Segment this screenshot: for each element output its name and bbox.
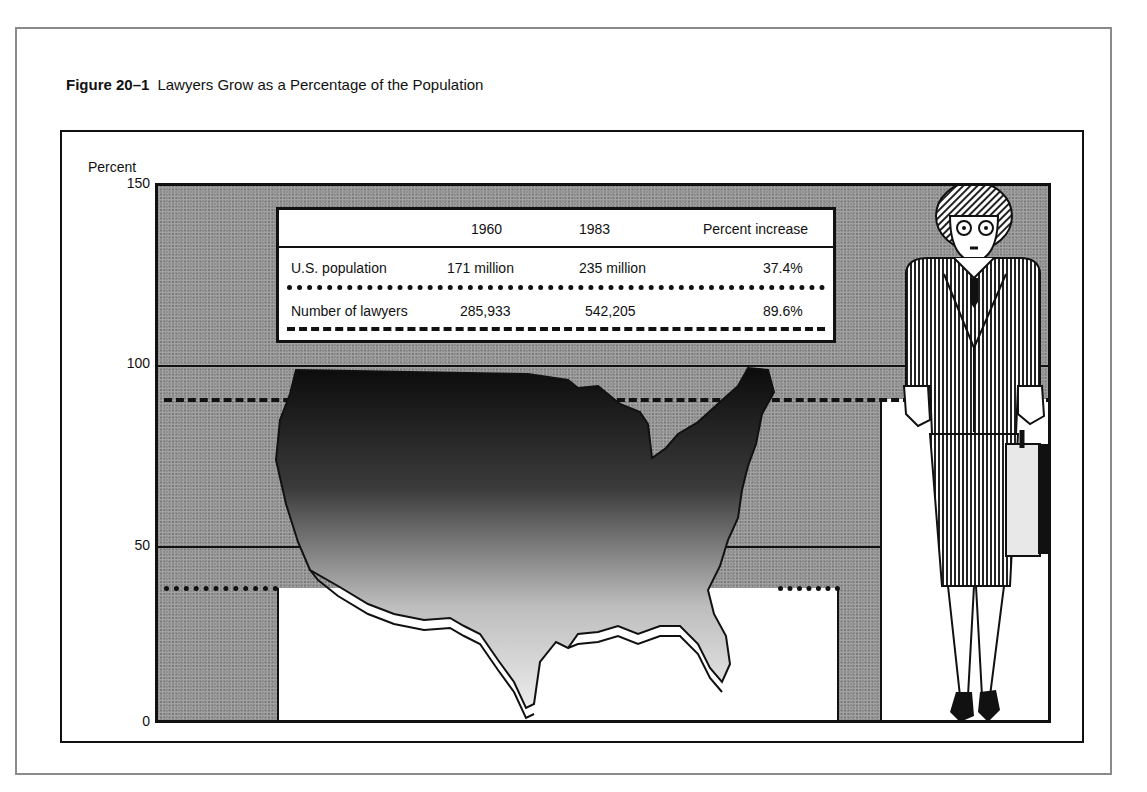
row-label-number-of-lawyers: Number of lawyers	[291, 303, 408, 319]
figure-number: Figure 20–1	[66, 76, 149, 93]
cell-us-population-1983: 235 million	[579, 260, 646, 276]
data-table-legend: 1960 1983 Percent increase U.S. populati…	[276, 207, 836, 343]
figure-caption: Figure 20–1Lawyers Grow as a Percentage …	[66, 76, 483, 93]
cell-us-population-1960: 171 million	[447, 260, 514, 276]
table-header-row: 1960 1983 Percent increase	[279, 210, 833, 248]
cell-lawyers-1960: 285,933	[460, 303, 511, 319]
cell-lawyers-1983: 542,205	[585, 303, 636, 319]
table-header-1983: 1983	[579, 221, 610, 237]
legend-dotted-line	[287, 285, 825, 290]
table-header-percent-increase: Percent increase	[703, 221, 808, 237]
y-tick-150: 150	[110, 175, 150, 191]
y-tick-50: 50	[110, 537, 150, 553]
y-tick-0: 0	[110, 713, 150, 729]
y-tick-100: 100	[110, 355, 150, 371]
row-label-us-population: U.S. population	[291, 260, 387, 276]
cell-us-population-increase: 37.4%	[763, 260, 803, 276]
y-axis-label: Percent	[88, 159, 136, 175]
cell-lawyers-increase: 89.6%	[763, 303, 803, 319]
lawyer-woman-with-briefcase-icon	[898, 186, 1051, 723]
legend-dashed-line	[287, 327, 825, 331]
us-map-icon	[268, 364, 848, 723]
ref-line-us-population-left	[164, 586, 278, 591]
figure-title: Lawyers Grow as a Percentage of the Popu…	[157, 76, 483, 93]
table-header-1960: 1960	[471, 221, 502, 237]
